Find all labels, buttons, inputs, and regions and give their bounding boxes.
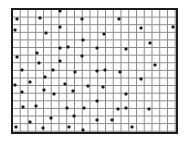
grid-dot: [59, 10, 62, 13]
grid-dot: [104, 69, 107, 72]
grid-dot: [172, 26, 175, 29]
grid-dot: [81, 55, 84, 58]
grid-dot: [96, 100, 99, 103]
grid-dot: [29, 81, 32, 84]
grid-dot: [131, 126, 134, 129]
grid-dot: [45, 32, 48, 35]
grid-dot: [149, 42, 152, 45]
grid-frame: [11, 8, 178, 134]
grid-dot: [64, 83, 67, 86]
grid-dot: [118, 18, 121, 21]
grid-dot: [67, 46, 70, 49]
grid-dot: [14, 84, 17, 87]
grid-dot: [96, 47, 99, 50]
grid-dot: [140, 27, 143, 30]
grid-dot: [21, 69, 24, 72]
grid-dot: [103, 33, 106, 36]
grid-dot: [43, 89, 46, 92]
grid-dot: [148, 108, 151, 111]
grid-dot: [73, 115, 76, 118]
grid-dot: [50, 117, 53, 120]
grid-dot: [82, 39, 85, 42]
grid-dot: [42, 127, 45, 130]
grid-dot: [16, 18, 19, 21]
grid-dot: [83, 107, 86, 110]
grid-dot: [66, 107, 69, 110]
dot-grid-figure: [0, 0, 188, 141]
grid-dot: [87, 85, 90, 88]
grid-dot: [96, 70, 99, 73]
grid-dot: [74, 71, 77, 74]
grid-dot: [35, 105, 38, 108]
grid-dot: [29, 121, 32, 124]
grid-dot: [39, 17, 42, 20]
grid-dot: [119, 71, 122, 74]
grid-dot: [125, 48, 128, 51]
grid-dot: [68, 126, 71, 129]
grid-dot: [59, 47, 62, 50]
grid-dot: [52, 69, 55, 72]
grid-dot: [82, 129, 85, 132]
grid-dot: [117, 108, 120, 111]
grid-dot: [81, 18, 84, 21]
grid-dot: [102, 86, 105, 89]
grid-dot: [59, 60, 62, 63]
grid-dot: [16, 56, 19, 59]
grid-dot: [125, 93, 128, 96]
grid-dot: [36, 52, 39, 55]
grid-dot: [15, 126, 18, 129]
grid-dot: [22, 106, 25, 109]
grid-dot: [111, 119, 114, 122]
grid-dot: [72, 90, 75, 93]
grid-dot: [21, 91, 24, 94]
grid-dot: [96, 119, 99, 122]
grid-dot: [59, 26, 62, 29]
grid-dot: [38, 62, 41, 65]
grid-dot: [14, 29, 17, 32]
grid-dot: [154, 64, 157, 67]
grid-dot: [140, 78, 143, 81]
grid-dot: [53, 93, 56, 96]
grid-dot: [125, 107, 128, 110]
grid-dot: [44, 76, 47, 79]
